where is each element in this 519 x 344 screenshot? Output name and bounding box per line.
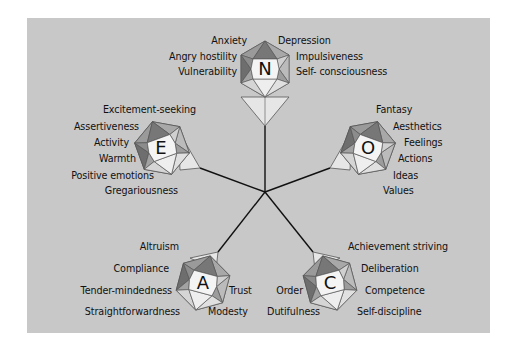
facet-label: Modesty	[208, 306, 248, 317]
facet-label: Anxiety	[211, 35, 247, 46]
facet-label: Self-discipline	[357, 306, 422, 317]
facet-label: Self- consciousness	[296, 66, 387, 77]
factor-e-letter: E	[146, 138, 176, 158]
facet-label: Excitement-seeking	[103, 104, 196, 115]
facet-label: Ideas	[393, 170, 418, 181]
facet-label: Assertiveness	[74, 121, 139, 132]
facet-label: Tender-mindedness	[81, 285, 172, 296]
facet-label: Positive emotions	[71, 170, 154, 181]
facet-label: Actions	[398, 153, 432, 164]
facet-label: Dutifulness	[267, 306, 320, 317]
facet-label: Deliberation	[361, 263, 419, 274]
facet-label: Straightforwardness	[85, 306, 180, 317]
facet-label: Gregariousness	[105, 185, 178, 196]
facet-label: Aesthetics	[393, 121, 442, 132]
factor-n-letter: N	[250, 59, 280, 79]
facet-label: Order	[276, 285, 303, 296]
facet-label: Depression	[278, 35, 331, 46]
facet-label: Altruism	[140, 241, 179, 252]
facet-label: Trust	[229, 285, 252, 296]
facet-label: Angry hostility	[169, 51, 237, 62]
spokes	[200, 126, 330, 252]
facet-label: Vulnerability	[178, 66, 237, 77]
factor-o-letter: O	[353, 138, 383, 158]
facet-label: Impulsiveness	[296, 51, 363, 62]
factor-n-shape	[241, 41, 289, 126]
facet-label: Values	[383, 185, 414, 196]
facet-label: Activity	[94, 137, 129, 148]
facet-label: Compliance	[114, 263, 169, 274]
factor-a-letter: A	[188, 273, 218, 293]
factor-c-letter: C	[315, 273, 345, 293]
facet-label: Feelings	[404, 137, 443, 148]
facet-label: Competence	[365, 285, 425, 296]
facet-label: Warmth	[99, 153, 136, 164]
facet-label: Fantasy	[376, 104, 412, 115]
facet-label: Achievement striving	[348, 241, 448, 252]
